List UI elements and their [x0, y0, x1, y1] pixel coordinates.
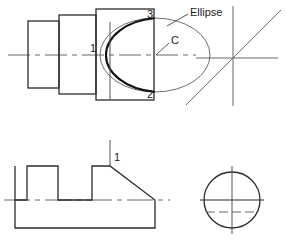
center-c-leader: [156, 43, 169, 55]
label-center-c: C: [171, 34, 179, 46]
label-point-1-top: 1: [90, 42, 96, 54]
label-point-3: 3: [147, 8, 153, 20]
front-view-group: 1: [4, 140, 170, 228]
label-point-1-front: 1: [114, 151, 120, 163]
side-view-group: [200, 166, 264, 234]
front-view-outline: [15, 166, 155, 228]
cad-canvas: 1 3 2 C Ellipse 1: [0, 0, 286, 244]
engineering-drawing-canvas: 1 3 2 C Ellipse 1: [0, 0, 286, 244]
axis-cross-group: [186, 6, 281, 106]
label-point-2: 2: [147, 88, 153, 100]
top-view-group: 1 3 2 C Ellipse: [8, 6, 222, 100]
label-ellipse-callout: Ellipse: [190, 6, 222, 18]
